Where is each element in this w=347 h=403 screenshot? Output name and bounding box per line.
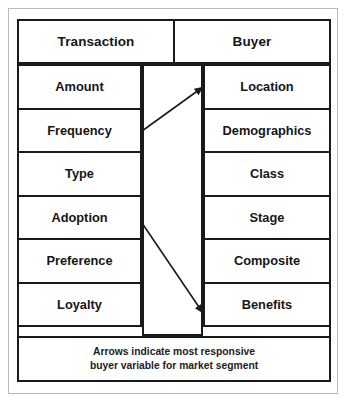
table-row: Amount Location <box>17 64 331 110</box>
header-cell-transaction: Transaction <box>19 21 175 62</box>
table-row: Preference Composite <box>17 238 331 284</box>
buyer-variable-composite[interactable]: Composite <box>203 238 331 284</box>
diagram-figure: Transaction Buyer Amount Location Freque… <box>0 0 347 403</box>
legend-caption-line-1: Arrows indicate most responsive <box>93 345 255 359</box>
table-row: Frequency Demographics <box>17 108 331 154</box>
header-row: Transaction Buyer <box>17 19 331 64</box>
legend-caption-row: Arrows indicate most responsive buyer va… <box>17 336 331 382</box>
buyer-variable-location[interactable]: Location <box>203 64 331 110</box>
transaction-variable-type[interactable]: Type <box>17 151 142 197</box>
table-row: Loyalty Benefits <box>17 282 331 328</box>
transaction-variable-frequency[interactable]: Frequency <box>17 108 142 154</box>
transaction-variable-loyalty[interactable]: Loyalty <box>17 282 142 328</box>
buyer-variable-demographics[interactable]: Demographics <box>203 108 331 154</box>
legend-caption-line-2: buyer variable for market segment <box>90 359 258 373</box>
transaction-variable-amount[interactable]: Amount <box>17 64 142 110</box>
header-cell-buyer: Buyer <box>175 21 329 62</box>
buyer-variable-stage[interactable]: Stage <box>203 195 331 241</box>
table-row: Adoption Stage <box>17 195 331 241</box>
transaction-variable-preference[interactable]: Preference <box>17 238 142 284</box>
transaction-variable-adoption[interactable]: Adoption <box>17 195 142 241</box>
variable-grid: Amount Location Frequency Demographics T… <box>17 64 331 336</box>
buyer-variable-class[interactable]: Class <box>203 151 331 197</box>
buyer-variable-benefits[interactable]: Benefits <box>203 282 331 328</box>
table-row: Type Class <box>17 151 331 197</box>
